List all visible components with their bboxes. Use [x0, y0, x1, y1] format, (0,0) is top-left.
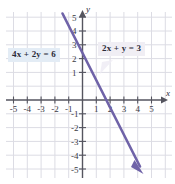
y-tick-label: -3: [71, 137, 79, 147]
y-tick-label: -1: [71, 109, 79, 119]
y-axis: [79, 10, 86, 178]
y-axis-label: y: [85, 4, 90, 14]
y-tick-label: -2: [71, 123, 79, 133]
x-axis: [6, 97, 168, 104]
x-tick-label: 5: [149, 104, 154, 114]
equation-label-left: 4x + 2y = 6: [8, 48, 60, 62]
x-tick-label: 4: [135, 104, 140, 114]
y-tick-label: -5: [71, 165, 79, 175]
x-tick-label: -2: [51, 104, 59, 114]
x-tick-label: 1: [94, 104, 99, 114]
x-tick-label: -3: [37, 104, 45, 114]
y-tick-label: 1: [72, 68, 77, 78]
x-axis-label: x: [165, 88, 170, 98]
equation-label-right: 2x + y = 3: [98, 42, 145, 56]
y-tick-label: 2: [72, 54, 77, 64]
coordinate-graph-figure: -5 -4 -3 -2 -1 1 2 3 4 5 5 4 3 2 1 -1 -2…: [0, 0, 175, 184]
x-tick-label: -4: [24, 104, 32, 114]
x-tick-label: -5: [10, 104, 18, 114]
x-tick-label: 3: [122, 104, 127, 114]
y-tick-label: 5: [72, 13, 77, 23]
y-tick-label: -4: [71, 151, 79, 161]
grid-lines: [6, 12, 172, 178]
graph-canvas: -5 -4 -3 -2 -1 1 2 3 4 5 5 4 3 2 1 -1 -2…: [0, 0, 175, 184]
